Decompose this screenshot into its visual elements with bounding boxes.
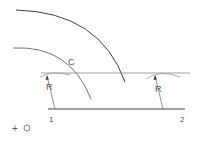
radius-line-left: [47, 76, 55, 109]
arc-label-c: C: [68, 57, 75, 67]
construction-arc-left: [40, 73, 70, 77]
center-marker-icon: +: [12, 123, 18, 134]
geometry-diagram: C R R 1 2 +: [0, 0, 200, 142]
construction-arc-right: [146, 73, 180, 79]
outer-arc: [16, 10, 125, 82]
arrowhead-right: [154, 75, 158, 80]
point-label-2: 2: [180, 115, 185, 124]
radius-label-right: R: [155, 84, 162, 94]
arrowhead-left: [46, 75, 50, 80]
radius-label-left: R: [46, 82, 53, 92]
center-point-o: [24, 125, 30, 131]
point-label-1: 1: [49, 115, 54, 124]
